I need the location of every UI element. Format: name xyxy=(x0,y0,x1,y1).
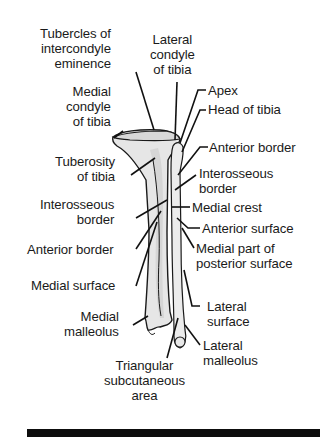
tibia-bone xyxy=(113,130,180,330)
label-line: Tubercles of xyxy=(40,26,111,41)
label-line: posterior surface xyxy=(196,256,293,271)
label-line: border xyxy=(40,212,114,227)
label-line: Triangular xyxy=(104,358,185,373)
label-triangular-subcutaneous-area: Triangular subcutaneous area xyxy=(104,358,185,403)
label-line: Medial part of xyxy=(196,241,293,256)
label-line: condyle xyxy=(66,99,111,114)
label-medial-part-of-posterior-surface: Medial part of posterior surface xyxy=(196,241,293,271)
label-anterior-border-right: Anterior border xyxy=(209,140,295,155)
label-line: intercondyle xyxy=(40,41,111,56)
label-line: of tibia xyxy=(55,169,115,184)
label-line: eminence xyxy=(40,56,111,71)
label-line: Lateral xyxy=(207,299,250,314)
label-lateral-condyle-of-tibia: Lateral condyle of tibia xyxy=(150,32,195,77)
label-line: malleolus xyxy=(64,324,119,339)
label-interosseous-border-right: Interosseous border xyxy=(199,166,273,196)
label-line: malleolus xyxy=(203,353,258,368)
label-tuberosity-of-tibia: Tuberosity of tibia xyxy=(55,154,115,184)
label-line: of tibia xyxy=(66,114,111,129)
label-anterior-border-left: Anterior border xyxy=(27,242,113,257)
label-line: Medial xyxy=(66,84,111,99)
label-medial-crest: Medial crest xyxy=(192,200,262,215)
label-lateral-surface: Lateral surface xyxy=(207,299,250,329)
label-line: area xyxy=(104,388,185,403)
label-line: Medial xyxy=(64,309,119,324)
label-line: Interosseous xyxy=(40,197,114,212)
label-medial-malleolus: Medial malleolus xyxy=(64,309,119,339)
label-line: condyle xyxy=(150,47,195,62)
label-line: Lateral xyxy=(150,32,195,47)
divider-rule xyxy=(27,429,320,437)
label-interosseous-border-left: Interosseous border xyxy=(40,197,114,227)
label-line: of tibia xyxy=(150,62,195,77)
label-line: border xyxy=(199,181,273,196)
label-medial-condyle-of-tibia: Medial condyle of tibia xyxy=(66,84,111,129)
label-anterior-surface: Anterior surface xyxy=(202,221,294,236)
label-medial-surface: Medial surface xyxy=(31,278,115,293)
label-apex: Apex xyxy=(208,83,238,98)
label-tubercles-of-intercondyle-eminence: Tubercles of intercondyle eminence xyxy=(40,26,111,71)
label-line: subcutaneous xyxy=(104,373,185,388)
label-line: Lateral xyxy=(203,338,258,353)
label-line: surface xyxy=(207,314,250,329)
label-lateral-malleolus: Lateral malleolus xyxy=(203,338,258,368)
label-line: Interosseous xyxy=(199,166,273,181)
label-line: Tuberosity xyxy=(55,154,115,169)
label-head-of-tibia: Head of tibia xyxy=(208,102,281,117)
